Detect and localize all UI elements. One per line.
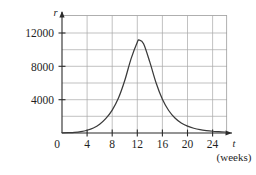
data-series-r <box>62 40 225 133</box>
x-tick-label-8: 8 <box>109 138 115 150</box>
y-axis-label: r <box>53 7 58 18</box>
x-tick-label-16: 16 <box>157 138 169 150</box>
chart-figure: 12000 8000 4000 0 4 8 12 16 20 24 r t (w… <box>0 0 256 175</box>
x-axis-label: t <box>233 138 237 149</box>
y-tick-label-12000: 12000 <box>25 27 54 39</box>
y-tick-label-0: 0 <box>54 138 60 150</box>
curve-line <box>62 40 225 133</box>
y-tick-label-4000: 4000 <box>31 94 54 106</box>
x-tick-label-20: 20 <box>182 138 194 150</box>
y-tick-label-8000: 8000 <box>31 61 54 73</box>
x-axis-arrow-icon <box>226 130 233 135</box>
x-tick-label-24: 24 <box>207 138 219 150</box>
chart-plot-area: 12000 8000 4000 0 4 8 12 16 20 24 r t (w… <box>0 0 256 175</box>
x-tick-labels: 4 8 12 16 20 24 <box>84 138 218 150</box>
y-axis-arrow-icon <box>59 11 64 18</box>
x-axis-unit-label: (weeks) <box>217 151 252 164</box>
y-tick-labels: 12000 8000 4000 0 <box>25 27 60 150</box>
axes-layer <box>59 11 232 136</box>
x-tick-label-4: 4 <box>84 138 90 150</box>
x-tick-label-12: 12 <box>132 138 144 150</box>
grid-layer <box>62 16 227 134</box>
